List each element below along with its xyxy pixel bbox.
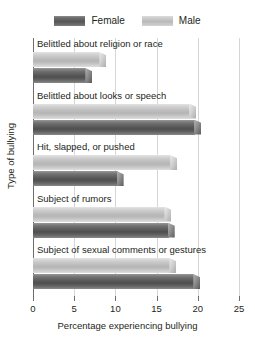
bar-female [33, 120, 201, 135]
bar-male [33, 207, 171, 222]
bar-male [33, 258, 176, 273]
x-tick-label-20: 20 [186, 303, 210, 314]
category-label: Hit, slapped, or pushed [37, 141, 135, 152]
bar-female [33, 274, 200, 289]
bar-chart: Female Male 0510152025 Belittled about r… [0, 0, 255, 348]
bar-body [33, 120, 195, 135]
bar-end-cap [164, 207, 171, 222]
bar-body [33, 52, 100, 67]
category-label: Subject of sexual comments or gestures [37, 244, 206, 255]
plot-area: Belittled about religion or raceBelittle… [33, 38, 239, 296]
x-tick-25 [239, 296, 240, 301]
x-tick-label-0: 0 [21, 303, 45, 314]
gridline-25 [239, 38, 240, 296]
x-tick-label-5: 5 [62, 303, 86, 314]
bar-group: Hit, slapped, or pushed [33, 141, 239, 193]
bar-female [33, 223, 175, 238]
bar-body [33, 207, 165, 222]
bar-group: Belittled about looks or speech [33, 90, 239, 142]
bar-female [33, 68, 92, 83]
legend-label-female: Female [91, 16, 124, 26]
legend-label-male: Male [179, 16, 201, 26]
bar-end-cap [170, 155, 177, 170]
bar-end-cap [169, 258, 176, 273]
legend-swatch-female-icon [54, 16, 85, 26]
bar-body [33, 155, 171, 170]
bar-group: Belittled about religion or race [33, 38, 239, 90]
bar-male [33, 155, 177, 170]
bar-body [33, 258, 170, 273]
category-label: Belittled about religion or race [37, 38, 163, 49]
category-label: Subject of rumors [37, 193, 111, 204]
bar-group: Subject of rumors [33, 193, 239, 245]
legend-entry-male: Male [142, 16, 201, 26]
bar-body [33, 171, 118, 186]
x-tick-20 [198, 296, 199, 301]
bar-end-cap [85, 68, 92, 83]
legend-entry-female: Female [54, 16, 124, 26]
bar-end-cap [194, 120, 201, 135]
bar-body [33, 274, 194, 289]
x-tick-label-15: 15 [145, 303, 169, 314]
bar-female [33, 171, 124, 186]
x-tick-5 [74, 296, 75, 301]
bar-end-cap [189, 104, 196, 119]
y-axis-title: Type of bullying [5, 91, 17, 221]
x-axis-title: Percentage experiencing bullying [0, 320, 255, 332]
chart-legend: Female Male [0, 10, 255, 32]
legend-swatch-male-icon [142, 16, 173, 26]
bar-body [33, 223, 169, 238]
bar-body [33, 104, 190, 119]
bar-end-cap [193, 274, 200, 289]
bar-end-cap [168, 223, 175, 238]
bar-male [33, 52, 106, 67]
x-tick-0 [33, 296, 34, 301]
bar-end-cap [99, 52, 106, 67]
category-label: Belittled about looks or speech [37, 90, 166, 101]
bar-group: Subject of sexual comments or gestures [33, 244, 239, 296]
x-tick-15 [157, 296, 158, 301]
x-tick-label-10: 10 [103, 303, 127, 314]
bar-end-cap [117, 171, 124, 186]
x-tick-10 [115, 296, 116, 301]
bar-male [33, 104, 196, 119]
x-tick-label-25: 25 [227, 303, 251, 314]
bar-body [33, 68, 86, 83]
